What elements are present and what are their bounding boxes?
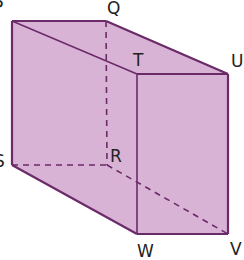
vertex-label-S: S	[0, 151, 5, 171]
cuboid-fill	[12, 21, 228, 234]
vertex-label-T: T	[132, 50, 144, 70]
vertex-label-V: V	[230, 239, 242, 259]
vertex-label-R: R	[110, 146, 122, 166]
vertex-label-Q: Q	[107, 0, 120, 18]
vertex-label-P: P	[0, 0, 3, 17]
cuboid-diagram: P Q T U S R W V	[0, 0, 244, 260]
vertex-label-U: U	[231, 51, 243, 71]
vertex-label-W: W	[137, 241, 154, 260]
